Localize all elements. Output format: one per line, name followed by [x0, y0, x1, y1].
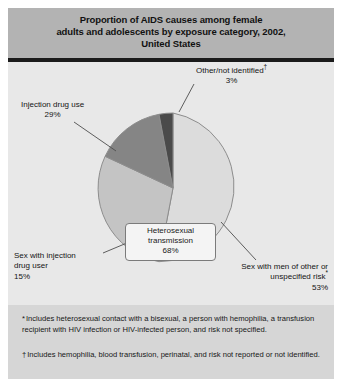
- footnote-marker-dagger: †: [264, 63, 268, 70]
- slice-label-msour-pct: 53%: [241, 283, 328, 293]
- figure-panel: Proportion of AIDS causes among female a…: [8, 8, 334, 379]
- footnote-asterisk: *Includes heterosexual contact with a bi…: [22, 313, 324, 335]
- slice-label-sex-men-other: Sex with men of other or unspecified ris…: [241, 262, 328, 293]
- slice-label-idu-pct: 29%: [21, 110, 84, 120]
- slice-label-msour-line-1: Sex with men of other or: [241, 262, 328, 271]
- footnote-asterisk-mark: *: [22, 314, 25, 323]
- figure-header: Proportion of AIDS causes among female a…: [8, 8, 334, 58]
- slice-label-sidu-line-2: drug user: [14, 261, 48, 270]
- footnote-dagger-text: Includes hemophilia, blood transfusion, …: [27, 350, 320, 359]
- callout-line-1: Heterosexual: [147, 226, 194, 235]
- heterosexual-transmission-callout: Heterosexual transmission 68%: [125, 223, 216, 261]
- slice-label-msour-line-2: unspecified risk: [270, 272, 325, 281]
- slice-label-idu-text: Injection drug use: [21, 100, 84, 109]
- footnote-dagger-mark: †: [22, 350, 26, 359]
- slice-label-other-text: Other/not identified: [196, 66, 264, 75]
- title-line-1: Proportion of AIDS causes among female: [80, 14, 263, 25]
- slice-label-sidu-line-1: Sex with injection: [14, 251, 76, 260]
- slice-label-injection-drug-use: Injection drug use 29%: [21, 100, 84, 121]
- slice-label-other: Other/not identified† 3%: [196, 66, 267, 87]
- title-line-2: adults and adolescents by exposure categ…: [56, 26, 285, 37]
- slice-label-other-pct: 3%: [196, 76, 267, 86]
- page-title: Proportion of AIDS causes among female a…: [8, 14, 334, 51]
- slice-label-sidu-pct: 15%: [14, 272, 76, 282]
- footnotes-area: *Includes heterosexual contact with a bi…: [8, 305, 334, 379]
- footnote-marker-asterisk: *: [325, 270, 328, 277]
- leader-line-other: [179, 84, 194, 112]
- footnote-dagger: †Includes hemophilia, blood transfusion,…: [22, 349, 324, 360]
- title-line-3: United States: [141, 38, 200, 49]
- slice-label-sex-with-idu: Sex with injection drug user 15%: [14, 251, 76, 282]
- footnote-asterisk-text: Includes heterosexual contact with a bis…: [22, 314, 314, 334]
- callout-line-3: 68%: [162, 246, 178, 255]
- chart-area: Heterosexual transmission 68% Other/not …: [8, 62, 334, 305]
- callout-line-2: transmission: [148, 236, 193, 245]
